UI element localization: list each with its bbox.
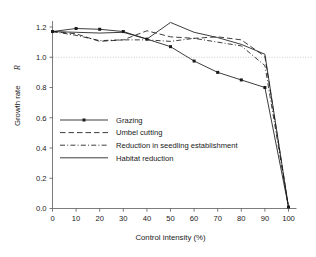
x-tick-label: 60 xyxy=(190,214,198,223)
x-tick-label: 70 xyxy=(213,214,221,223)
y-tick-label: 1.2 xyxy=(36,23,47,32)
growth-rate-line-chart: 0.00.20.40.60.81.01.2 010203040506070809… xyxy=(0,0,316,257)
legend-item-reduction-in-seedling-establishment: Reduction in seedling establishment xyxy=(60,141,238,150)
chart-figure: 0.00.20.40.60.81.01.2 010203040506070809… xyxy=(0,0,316,257)
x-tick-label: 50 xyxy=(166,214,174,223)
y-axis-title-symbol: R xyxy=(13,65,22,71)
x-tick-label: 0 xyxy=(50,214,54,223)
legend-label: Umbel cutting xyxy=(116,128,162,137)
y-tick-label: 0.6 xyxy=(36,114,47,123)
data-point-marker xyxy=(240,78,243,81)
x-axis-title: Control intensity (%) xyxy=(135,233,206,242)
legend-swatch-marker xyxy=(83,119,86,122)
y-tick-label: 1.0 xyxy=(36,53,47,62)
y-axis-ticks xyxy=(50,27,53,209)
legend-label: Reduction in seedling establishment xyxy=(116,141,238,150)
data-point-marker xyxy=(216,71,219,74)
legend-label: Grazing xyxy=(116,116,143,125)
series-habitat-reduction xyxy=(53,22,289,207)
legend-item-grazing: Grazing xyxy=(60,116,143,125)
y-axis-tick-labels: 0.00.20.40.60.81.01.2 xyxy=(36,23,47,214)
x-tick-label: 90 xyxy=(261,214,269,223)
data-point-marker xyxy=(98,28,101,31)
data-series-group xyxy=(51,22,290,208)
legend-item-umbel-cutting: Umbel cutting xyxy=(60,128,162,137)
series-path xyxy=(53,22,289,207)
data-point-marker xyxy=(193,60,196,63)
series-path xyxy=(53,32,289,207)
x-tick-label: 100 xyxy=(282,214,295,223)
series-grazing xyxy=(51,27,290,208)
x-axis-tick-labels: 0102030405060708090100 xyxy=(50,214,294,223)
series-reduction-in-seedling-establishment xyxy=(53,32,289,207)
legend-label: Habitat reduction xyxy=(116,154,173,163)
data-point-marker xyxy=(263,86,266,89)
x-tick-label: 20 xyxy=(95,214,103,223)
legend-item-habitat-reduction: Habitat reduction xyxy=(60,154,173,163)
x-tick-label: 80 xyxy=(237,214,245,223)
x-tick-label: 10 xyxy=(72,214,80,223)
chart-legend: GrazingUmbel cuttingReduction in seedlin… xyxy=(60,116,238,163)
x-tick-label: 30 xyxy=(119,214,127,223)
data-point-marker xyxy=(169,45,172,48)
y-axis-title: Growth rate R xyxy=(13,65,22,126)
data-point-marker xyxy=(75,27,78,30)
y-tick-label: 0.0 xyxy=(36,204,47,213)
y-tick-label: 0.2 xyxy=(36,174,47,183)
y-axis-title-text: Growth rate xyxy=(13,85,22,126)
y-tick-label: 0.8 xyxy=(36,83,47,92)
y-tick-label: 0.4 xyxy=(36,144,47,153)
x-axis-ticks xyxy=(53,209,289,212)
x-tick-label: 40 xyxy=(143,214,151,223)
